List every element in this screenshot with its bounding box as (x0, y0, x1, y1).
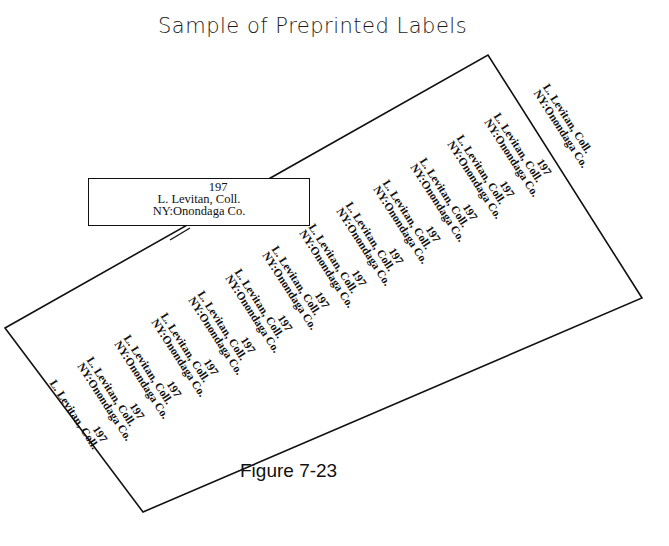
inset-label-enlarged: 197 L. Levitan, Coll. NY:Onondaga Co. (88, 178, 310, 226)
inset-locality: NY:Onondaga Co. (89, 205, 309, 217)
figure-caption: Figure 7-23 (240, 460, 337, 482)
